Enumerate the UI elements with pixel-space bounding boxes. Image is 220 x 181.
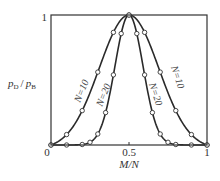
data-marker [166,140,170,144]
data-marker [80,108,84,112]
chart: 1 0 0.5 1 M/N pD/pB N=10 N=20 N=20 N=10 [0,0,220,181]
data-marker [64,132,68,136]
data-marker [158,132,162,136]
x-tick-0: 0 [44,146,50,158]
data-marker [103,110,107,114]
data-marker [119,31,123,35]
svg-text:pD/pB: pD/pB [7,77,36,91]
data-marker [174,108,178,112]
data-marker [189,132,193,136]
data-marker [96,70,100,74]
data-marker [135,31,139,35]
y-label-sub1: D [14,83,19,91]
data-marker [96,132,100,136]
x-tick-0.5: 0.5 [122,146,136,158]
data-marker [142,30,146,34]
curve-label-n10-left: N=10 [71,78,90,105]
y-label-sub2: B [31,83,36,91]
data-marker [88,140,92,144]
curve-label-n10-right: N=10 [169,63,187,90]
y-tick-1: 1 [42,11,48,23]
data-marker [150,110,154,114]
y-axis-label: pD/pB [7,77,36,91]
data-marker [111,73,115,77]
data-marker [158,70,162,74]
x-tick-1: 1 [204,146,210,158]
data-marker [142,73,146,77]
x-axis-label: M/N [118,158,139,170]
y-label-slash: / [21,77,25,89]
data-marker [111,30,115,34]
